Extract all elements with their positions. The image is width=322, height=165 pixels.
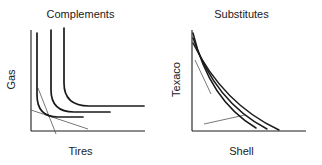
figure-canvas: Complements Gas Tires Substitutes Texaco… (0, 0, 322, 165)
panel-substitutes: Substitutes Texaco Shell (161, 0, 322, 165)
panel-complements: Complements Gas Tires (0, 0, 161, 165)
indifference-curve-substitutes-1 (193, 33, 256, 128)
indifference-curve-complements-2 (51, 30, 110, 112)
indifference-curve-complements-3 (64, 28, 144, 106)
plot-area-substitutes (161, 0, 322, 165)
plot-area-complements (0, 0, 161, 165)
indifference-curve-substitutes-2 (193, 38, 267, 129)
